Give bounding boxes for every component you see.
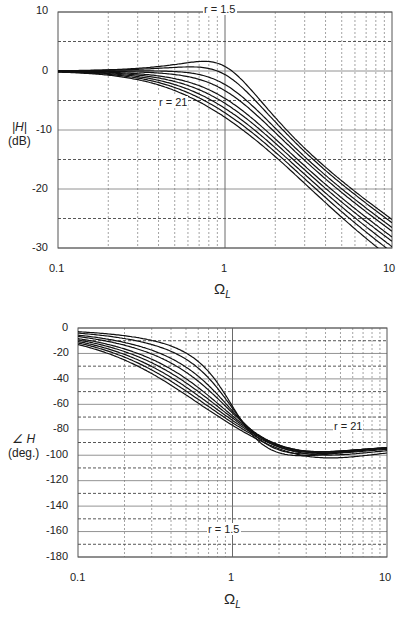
top-annotation-r-low: r = 1.5 [203, 3, 237, 15]
bottom-x-title: ΩL [224, 590, 241, 610]
bottom-ytick-m80: -80 [53, 422, 69, 434]
top-ytick-m20: -20 [32, 182, 48, 194]
top-xtick-0.1: 0.1 [49, 262, 64, 274]
bottom-ytick-m140: -140 [46, 499, 68, 511]
bottom-ytick-m60: -60 [53, 397, 69, 409]
bottom-annotation-r-low: r = 1.5 [207, 523, 241, 535]
bottom-y-title: ∠ H (deg.) [8, 432, 39, 460]
top-xtick-10: 10 [383, 262, 395, 274]
bottom-y-title-line2: (deg.) [8, 446, 39, 460]
bottom-ytick-m180: -180 [46, 550, 68, 562]
top-ytick-m10: -10 [36, 123, 52, 135]
bottom-xtick-0.1: 0.1 [70, 571, 85, 583]
bottom-xtick-10: 10 [379, 571, 391, 583]
top-ytick-10: 10 [36, 4, 48, 16]
top-y-title: |H| (dB) [8, 120, 31, 148]
top-annotation-r-high: r = 21 [158, 96, 188, 108]
top-xtick-1: 1 [221, 262, 227, 274]
top-y-title-line2: (dB) [8, 134, 31, 148]
bottom-ytick-m120: -120 [46, 473, 68, 485]
bottom-ytick-m160: -160 [46, 524, 68, 536]
bottom-xtick-1: 1 [228, 571, 234, 583]
top-ytick-m30: -30 [32, 241, 48, 253]
bottom-ytick-0: 0 [62, 321, 68, 333]
top-x-title: ΩL [214, 280, 231, 300]
bottom-ytick-m100: -100 [46, 448, 68, 460]
top-y-title-line1: |H| [8, 120, 31, 134]
top-ytick-0: 0 [42, 64, 48, 76]
bottom-y-title-line1: ∠ H [8, 432, 39, 446]
bottom-annotation-r-high: r = 21 [333, 420, 363, 432]
bottom-ytick-m20: -20 [53, 346, 69, 358]
bottom-ytick-m40: -40 [53, 372, 69, 384]
